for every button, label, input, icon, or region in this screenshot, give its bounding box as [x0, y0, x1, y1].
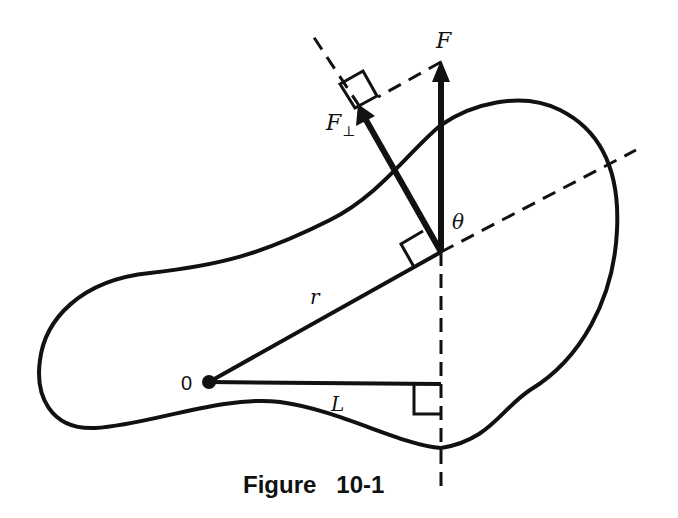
force-arrowhead-icon: [432, 60, 450, 82]
lever-arm-label: L: [330, 392, 344, 416]
right-angle-mark-pivot: [401, 231, 423, 267]
torque-diagram: F F ⊥ θ r L 0 Figure 10-1: [0, 0, 678, 518]
figure-caption: Figure 10-1: [243, 471, 384, 498]
r-extension-dashed-line: [441, 150, 636, 252]
force-perp-label: F: [325, 110, 342, 135]
origin-label: 0: [181, 372, 192, 394]
theta-label: θ: [452, 210, 464, 234]
force-perp-subscript: ⊥: [342, 123, 355, 139]
rigid-body-outline: [39, 101, 617, 448]
force-label: F: [435, 28, 452, 53]
radius-line: [209, 252, 441, 382]
radius-label: r: [310, 285, 321, 309]
lever-arm-line: [209, 382, 441, 384]
right-angle-mark-bottom: [414, 384, 441, 414]
projection-dashed-line: [378, 62, 441, 97]
f-perp-extension-dashed-line: [313, 36, 360, 107]
origin-point: [202, 375, 216, 389]
